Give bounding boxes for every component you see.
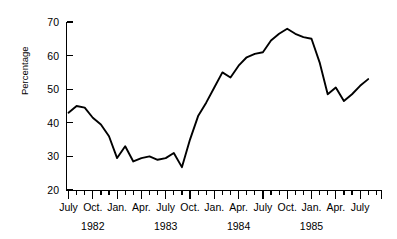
data-series-percentage [69, 29, 369, 167]
x-tick-label-11: Apr. [326, 201, 345, 213]
x-tick-label-6: Jan. [204, 201, 224, 213]
x-year-label-1983: 1983 [154, 220, 178, 232]
y-axis-label: Percentage [19, 46, 30, 95]
y-axis-tick-labels: 70 60 50 40 30 20 [47, 16, 59, 196]
chart-figure: Percentage 70 60 50 40 30 20 [0, 0, 397, 239]
x-year-label-1982: 1982 [81, 220, 105, 232]
x-tick-label-8: July [254, 201, 273, 213]
x-tick-label-10: Jan. [302, 201, 322, 213]
x-axis-ticks [69, 191, 382, 199]
x-axis-quarter-labels: July Oct. Jan. Apr. July Oct. Jan. Apr. … [59, 201, 370, 213]
axis-spines [67, 22, 383, 191]
x-tick-label-3: Apr. [132, 201, 151, 213]
y-tick-label-50: 50 [47, 83, 59, 95]
y-tick-label-40: 40 [47, 117, 59, 129]
x-year-label-1985: 1985 [300, 220, 324, 232]
x-tick-label-1: Oct. [83, 201, 102, 213]
x-year-label-1984: 1984 [227, 220, 251, 232]
y-tick-label-30: 30 [47, 150, 59, 162]
x-tick-label-9: Oct. [278, 201, 297, 213]
y-axis-label-text: Percentage [19, 46, 30, 95]
y-axis-ticks [67, 22, 74, 190]
x-tick-label-5: Oct. [180, 201, 199, 213]
x-axis-year-labels: 1982 1983 1984 1985 [81, 220, 323, 232]
x-tick-label-7: Apr. [229, 201, 248, 213]
y-tick-label-60: 60 [47, 50, 59, 62]
x-tick-label-0: July [59, 201, 78, 213]
x-tick-label-4: July [156, 201, 175, 213]
x-tick-label-2: Jan. [107, 201, 127, 213]
y-tick-label-70: 70 [47, 16, 59, 28]
y-tick-label-20: 20 [47, 184, 59, 196]
line-chart-canvas: Percentage 70 60 50 40 30 20 [0, 0, 397, 239]
x-tick-label-12: July [351, 201, 370, 213]
